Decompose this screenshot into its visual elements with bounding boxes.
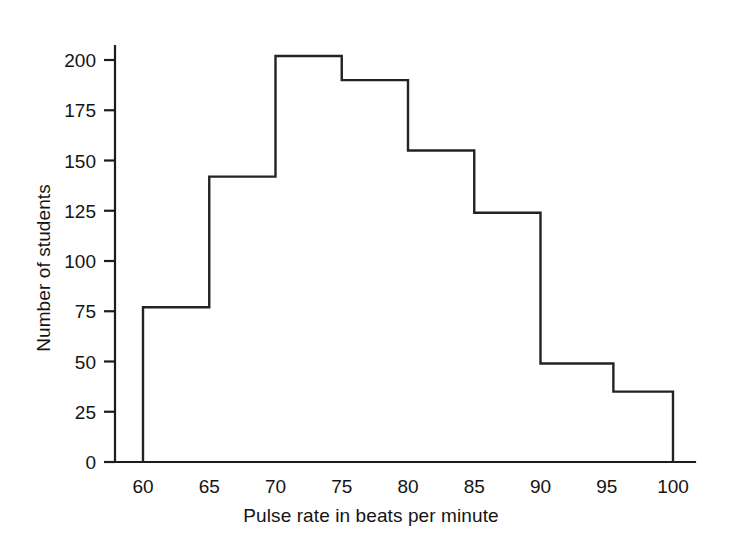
y-axis-tick-label: 50 — [75, 352, 96, 373]
y-axis-tick-label: 200 — [64, 50, 96, 71]
y-axis-tick-label: 0 — [85, 452, 96, 473]
x-axis-tick-label: 80 — [397, 476, 418, 497]
y-axis-tick-label: 25 — [75, 402, 96, 423]
x-axis-tick-label: 60 — [132, 476, 153, 497]
x-axis-title: Pulse rate in beats per minute — [0, 505, 742, 527]
y-axis-tick-label: 150 — [64, 151, 96, 172]
histogram-bar — [276, 56, 342, 462]
histogram-bar — [541, 364, 614, 462]
y-axis-tick-label: 175 — [64, 100, 96, 121]
y-axis-tick-label: 100 — [64, 251, 96, 272]
x-axis-tick-label: 75 — [331, 476, 352, 497]
histogram-bar — [474, 213, 540, 462]
x-axis-tick-label: 95 — [596, 476, 617, 497]
histogram-bar — [613, 392, 673, 462]
x-axis-tick-label: 100 — [657, 476, 689, 497]
y-axis-tick-label: 75 — [75, 301, 96, 322]
x-axis-tick-label: 90 — [530, 476, 551, 497]
x-axis-tick-label: 70 — [265, 476, 286, 497]
histogram-bar — [209, 177, 275, 462]
y-axis-title: Number of students — [33, 58, 55, 478]
histogram-bar — [408, 150, 474, 462]
histogram-plot-area: 0255075100125150175200606570758085909510… — [0, 0, 742, 558]
histogram-bar — [143, 307, 209, 462]
x-axis-tick-label: 65 — [199, 476, 220, 497]
x-axis-tick-label: 85 — [464, 476, 485, 497]
histogram-bar — [342, 80, 408, 462]
y-axis-tick-label: 125 — [64, 201, 96, 222]
histogram-figure: 0255075100125150175200606570758085909510… — [0, 0, 742, 558]
